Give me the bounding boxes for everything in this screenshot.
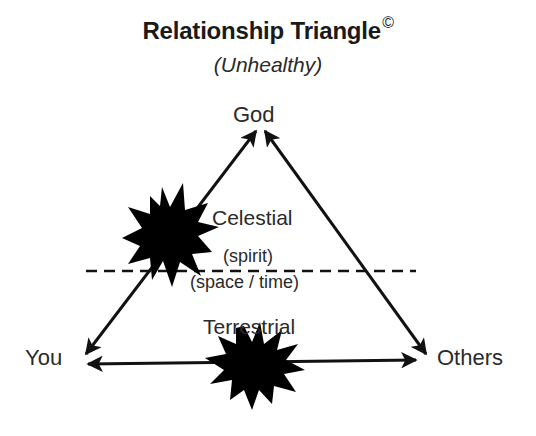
- region-spirit-label: (spirit): [223, 246, 273, 267]
- region-space-time-label: (space / time): [190, 272, 299, 293]
- region-terrestrial-label: Terrestrial: [203, 315, 295, 339]
- node-you: You: [25, 345, 62, 371]
- node-god: God: [233, 102, 275, 128]
- node-others: Others: [437, 345, 503, 371]
- region-celestial-label: Celestial: [212, 206, 293, 230]
